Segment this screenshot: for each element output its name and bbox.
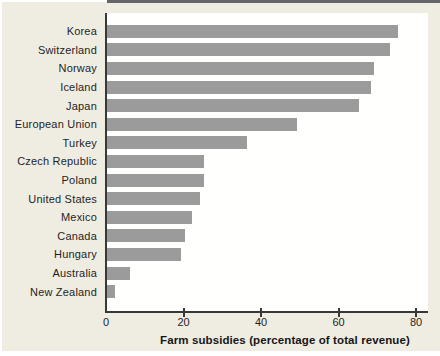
bar-row: European Union: [0, 115, 428, 134]
country-label: Poland: [0, 174, 105, 186]
bar: [107, 43, 390, 56]
bar-row: Hungary: [0, 245, 428, 264]
country-label: Japan: [0, 100, 105, 112]
bar: [107, 81, 371, 94]
bar: [107, 248, 181, 261]
country-label: Czech Republic: [0, 155, 105, 167]
bar-row: Poland: [0, 171, 428, 190]
bar-area: [107, 285, 428, 298]
bar-row: Japan: [0, 96, 428, 115]
bar-row: Mexico: [0, 208, 428, 227]
bar-row: Switzerland: [0, 41, 428, 60]
bar-row: Canada: [0, 227, 428, 246]
bar-area: [107, 174, 428, 187]
x-tick-label: 40: [241, 316, 281, 328]
top-rule: [107, 0, 440, 3]
bar: [107, 285, 115, 298]
bar: [107, 62, 374, 75]
country-label: Mexico: [0, 211, 105, 223]
bar-area: [107, 25, 428, 38]
bar-rows: KoreaSwitzerlandNorwayIcelandJapanEurope…: [0, 22, 428, 301]
bar-area: [107, 155, 428, 168]
bar-area: [107, 118, 428, 131]
country-label: European Union: [0, 118, 105, 130]
bar-area: [107, 43, 428, 56]
country-label: United States: [0, 193, 105, 205]
bar: [107, 136, 247, 149]
bar-area: [107, 248, 428, 261]
bar-row: Korea: [0, 22, 428, 41]
bar-area: [107, 267, 428, 280]
country-label: Switzerland: [0, 44, 105, 56]
country-label: New Zealand: [0, 286, 105, 298]
country-label: Hungary: [0, 248, 105, 260]
bar-row: Norway: [0, 59, 428, 78]
bar-row: Czech Republic: [0, 152, 428, 171]
bar-area: [107, 99, 428, 112]
bar: [107, 211, 192, 224]
country-label: Norway: [0, 62, 105, 74]
country-label: Iceland: [0, 81, 105, 93]
bar: [107, 99, 359, 112]
bar-row: Australia: [0, 264, 428, 283]
bar-area: [107, 192, 428, 205]
bar-row: United States: [0, 189, 428, 208]
bar-area: [107, 62, 428, 75]
bar: [107, 118, 297, 131]
x-tick-label: 80: [396, 316, 436, 328]
x-axis-title: Farm subsidies (percentage of total reve…: [140, 334, 430, 346]
page-root: { "chart_data": { "type": "bar", "orient…: [0, 0, 440, 356]
bar: [107, 155, 204, 168]
x-tick-label: 60: [319, 316, 359, 328]
country-label: Australia: [0, 267, 105, 279]
bar-row: New Zealand: [0, 282, 428, 301]
bar: [107, 174, 204, 187]
country-label: Korea: [0, 25, 105, 37]
bar: [107, 25, 398, 38]
country-label: Turkey: [0, 137, 105, 149]
bar-row: Turkey: [0, 134, 428, 153]
bar-area: [107, 211, 428, 224]
bar: [107, 192, 200, 205]
bar: [107, 229, 185, 242]
x-tick-label: 20: [164, 316, 204, 328]
bar-area: [107, 81, 428, 94]
country-label: Canada: [0, 230, 105, 242]
x-tick-label: 0: [86, 316, 126, 328]
bar-row: Iceland: [0, 78, 428, 97]
bar-area: [107, 229, 428, 242]
bar: [107, 267, 130, 280]
bar-area: [107, 136, 428, 149]
